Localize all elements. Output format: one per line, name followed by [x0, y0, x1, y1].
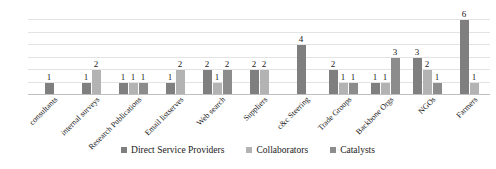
x-axis-tick-labels: consultantsinternal surveysResearch Publ…	[28, 95, 490, 141]
bar-item[interactable]: 1	[82, 8, 91, 95]
bar-group: 321	[406, 8, 448, 95]
chart-legend: Direct Service ProvidersCollaboratorsCat…	[0, 145, 496, 155]
bar-group: 12	[70, 8, 112, 95]
bar-item[interactable]: 1	[129, 8, 138, 95]
bar-group: 212	[196, 8, 238, 95]
bar[interactable]	[460, 20, 469, 95]
bar-groups: 1121111221222421111332161	[28, 8, 490, 95]
x-tick-label: Email listserves	[143, 95, 185, 137]
bar-item[interactable]: 4	[297, 8, 306, 95]
bar-value-label: 1	[215, 73, 220, 82]
bar-group: 1	[28, 8, 70, 95]
bar-value-label: 1	[383, 73, 388, 82]
bar-value-label: 1	[121, 73, 126, 82]
bar-item[interactable]: 2	[92, 8, 101, 95]
x-tick-label: consultants	[28, 95, 60, 127]
bar-value-label: 1	[84, 73, 89, 82]
bar-value-label: 1	[131, 73, 136, 82]
bar[interactable]	[391, 58, 400, 95]
legend-item[interactable]: Direct Service Providers	[121, 145, 224, 155]
bar-value-label: 3	[415, 48, 420, 57]
bar-item[interactable]: 3	[413, 8, 422, 95]
x-tick-label: Farmers	[454, 95, 479, 120]
bar[interactable]	[92, 70, 101, 95]
bar[interactable]	[203, 70, 212, 95]
bar-value-label: 1	[435, 73, 440, 82]
bar-value-label: 4	[299, 35, 304, 44]
bar-value-label: 2	[205, 60, 210, 69]
bar[interactable]	[423, 70, 432, 95]
bar[interactable]	[176, 70, 185, 95]
x-tick-label: Suppliers	[242, 95, 270, 123]
bar-item[interactable]: 2	[329, 8, 338, 95]
x-tick-label: NGOs	[417, 95, 438, 116]
bar[interactable]	[223, 70, 232, 95]
bar-value-label: 1	[47, 73, 52, 82]
bar-value-label: 2	[331, 60, 336, 69]
legend-item[interactable]: Collaborators	[246, 145, 308, 155]
bar-item[interactable]: 1	[166, 8, 175, 95]
bar-item[interactable]: 1	[371, 8, 380, 95]
bar-item[interactable]: 1	[213, 8, 222, 95]
x-tick-label: Web search	[195, 95, 227, 127]
bar-item[interactable]: 2	[203, 8, 212, 95]
bar-item[interactable]: 1	[381, 8, 390, 95]
bar-item[interactable]: 2	[176, 8, 185, 95]
bar-group: 4	[280, 8, 322, 95]
bar[interactable]	[260, 70, 269, 95]
bar-item[interactable]: 3	[391, 8, 400, 95]
legend-label: Catalysts	[340, 145, 375, 155]
bar-group: 211	[322, 8, 364, 95]
bar[interactable]	[329, 70, 338, 95]
bar-item[interactable]: 1	[119, 8, 128, 95]
bar-value-label: 2	[94, 60, 99, 69]
bar-value-label: 3	[393, 48, 398, 57]
bar-value-label: 1	[141, 73, 146, 82]
bar[interactable]	[250, 70, 259, 95]
bar-item[interactable]: 1	[139, 8, 148, 95]
bar-item[interactable]: 1	[433, 8, 442, 95]
bar-value-label: 1	[168, 73, 173, 82]
legend-swatch-icon	[330, 147, 336, 153]
plot-area: 1121111221222421111332161	[28, 8, 490, 95]
x-tick-label: c&c Steering	[275, 95, 311, 131]
bar-value-label: 1	[472, 73, 477, 82]
legend-label: Collaborators	[256, 145, 308, 155]
bar-value-label: 2	[178, 60, 183, 69]
bar-item[interactable]: 1	[45, 8, 54, 95]
bar-value-label: 2	[425, 60, 430, 69]
bar-group: 111	[112, 8, 154, 95]
bar-value-label: 6	[462, 10, 467, 19]
bar-value-label: 1	[341, 73, 346, 82]
bar-value-label: 2	[252, 60, 257, 69]
x-tick-label: internal surveys	[59, 95, 101, 137]
x-tick-label: Trade Groups	[316, 95, 353, 132]
bar-item[interactable]: 6	[460, 8, 469, 95]
bar-item[interactable]: 1	[339, 8, 348, 95]
bar[interactable]	[413, 58, 422, 95]
bar-value-label: 1	[351, 73, 356, 82]
bar-chart: 1121111221222421111332161 consultantsint…	[0, 0, 496, 169]
bar-value-label: 2	[225, 60, 230, 69]
x-tick-label: Backbone Orgs	[354, 95, 395, 136]
legend-label: Direct Service Providers	[131, 145, 224, 155]
bar-item[interactable]: 2	[260, 8, 269, 95]
bar-item[interactable]: 1	[470, 8, 479, 95]
bar-item[interactable]: 2	[423, 8, 432, 95]
bar-value-label: 1	[373, 73, 378, 82]
bar-item[interactable]: 1	[349, 8, 358, 95]
legend-swatch-icon	[121, 147, 127, 153]
legend-item[interactable]: Catalysts	[330, 145, 375, 155]
bar[interactable]	[297, 45, 306, 95]
bar-value-label: 2	[262, 60, 267, 69]
bar-group: 22	[238, 8, 280, 95]
bar-group: 113	[364, 8, 406, 95]
bar-item[interactable]: 2	[223, 8, 232, 95]
bar-item[interactable]: 2	[250, 8, 259, 95]
bar-group: 12	[154, 8, 196, 95]
legend-swatch-icon	[246, 147, 252, 153]
bar-group: 61	[448, 8, 490, 95]
